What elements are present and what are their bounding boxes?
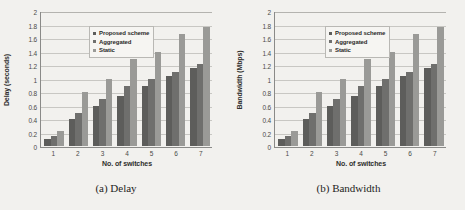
legend-label: Proposed scheme [335,30,385,36]
y-axis-tick-label: 1.8 [263,22,271,29]
x-axis-tick-label: 7 [422,150,447,157]
bar [130,59,137,146]
x-axis-tick-label: 6 [398,150,423,157]
legend-swatch-icon [329,49,332,52]
bar [340,79,347,146]
bar [82,92,89,146]
y-axis-title: Bandwidth (Mbps) [236,50,243,109]
y-axis-tick-label: 1.8 [29,22,37,29]
legend-swatch-icon [93,49,96,52]
legend-item[interactable]: Proposed scheme [93,29,149,38]
legend-label: Aggregated [99,39,131,45]
y-axis-tick-label: 1.4 [29,49,37,56]
y-axis-tick-label: 1.6 [29,36,37,43]
y-axis-tick-label: 1 [34,76,37,83]
y-axis-tick-label: 0.8 [29,90,37,97]
bar [57,131,64,146]
legend-label: Aggregated [335,39,367,45]
legend-bandwidth: Proposed schemeAggregatedStatic [325,26,390,58]
legend-item[interactable]: Proposed scheme [329,29,385,38]
x-axis-tick-label: 7 [188,150,213,157]
y-axis-tick-label: 1 [268,76,271,83]
legend-label: Proposed scheme [99,30,149,36]
y-axis-tick-label: 1.6 [263,36,271,43]
y-axis-tick-label: 0.4 [29,117,37,124]
y-axis-tick-label: 1.2 [29,63,37,70]
bar-group [66,12,90,146]
bar [316,92,323,146]
legend-swatch-icon [93,32,96,35]
x-axis-ticks-delay: 1234567 [41,150,213,157]
y-axis-tick-label: 0.6 [263,103,271,110]
x-axis-tick-label: 6 [164,150,189,157]
bar [437,27,444,146]
legend-label: Static [99,47,115,53]
x-axis-title: No. of switches [275,160,447,167]
bar-group [42,12,66,146]
x-axis-tick-label: 1 [275,150,300,157]
y-axis-tick-label: 0 [268,144,271,151]
x-axis-ticks-bandwidth: 1234567 [275,150,447,157]
bar-group [276,12,300,146]
bar-group [188,12,212,146]
bar [291,131,298,146]
x-axis-tick-label: 5 [373,150,398,157]
legend-item[interactable]: Aggregated [93,38,149,47]
bar-group [397,12,421,146]
bar [106,79,113,146]
bar [155,52,162,146]
chart-area-delay: 00.20.40.60.811.21.41.61.82 Delay (secon… [40,12,212,148]
y-axis-title: Delay (seconds) [3,54,10,106]
y-axis-tick-label: 1.4 [263,49,271,56]
chart-area-bandwidth: 00.20.40.60.811.21.41.61.82 Bandwidth (M… [274,12,446,148]
panel-delay: 00.20.40.60.811.21.41.61.82 Delay (secon… [0,0,232,210]
y-axis-tick-label: 0 [34,144,37,151]
y-axis-tick-label: 0.8 [263,90,271,97]
x-axis-tick-label: 3 [90,150,115,157]
legend-label: Static [335,47,351,53]
y-axis-tick-label: 1.2 [263,63,271,70]
legend-item[interactable]: Static [93,46,149,55]
x-axis-tick-label: 5 [139,150,164,157]
bar [413,34,420,146]
panel-bandwidth: 00.20.40.60.811.21.41.61.82 Bandwidth (M… [232,0,465,210]
bar [364,59,371,146]
panel-caption-bandwidth: (b) Bandwidth [232,182,465,194]
legend-swatch-icon [329,40,332,43]
panel-caption-delay: (a) Delay [0,182,232,194]
y-axis-tick-label: 2 [34,9,37,16]
x-axis-tick-label: 4 [349,150,374,157]
legend-swatch-icon [329,32,332,35]
x-axis-tick-label: 4 [115,150,140,157]
legend-delay: Proposed schemeAggregatedStatic [89,26,154,58]
y-axis-tick-label: 0.2 [263,130,271,137]
bar [203,27,210,146]
x-axis-tick-label: 1 [41,150,66,157]
bar-group [163,12,187,146]
bar [179,34,186,146]
x-axis-tick-label: 2 [300,150,325,157]
bar [389,52,396,146]
figure-container: 00.20.40.60.811.21.41.61.82 Delay (secon… [0,0,465,210]
legend-item[interactable]: Static [329,46,385,55]
y-axis-tick-label: 0.4 [263,117,271,124]
x-axis-title: No. of switches [41,160,213,167]
y-axis-tick-label: 0.6 [29,103,37,110]
bar-group [300,12,324,146]
bar-group [422,12,446,146]
y-axis-tick-label: 2 [268,9,271,16]
legend-item[interactable]: Aggregated [329,38,385,47]
x-axis-tick-label: 3 [324,150,349,157]
x-axis-tick-label: 2 [66,150,91,157]
legend-swatch-icon [93,40,96,43]
y-axis-tick-label: 0.2 [29,130,37,137]
